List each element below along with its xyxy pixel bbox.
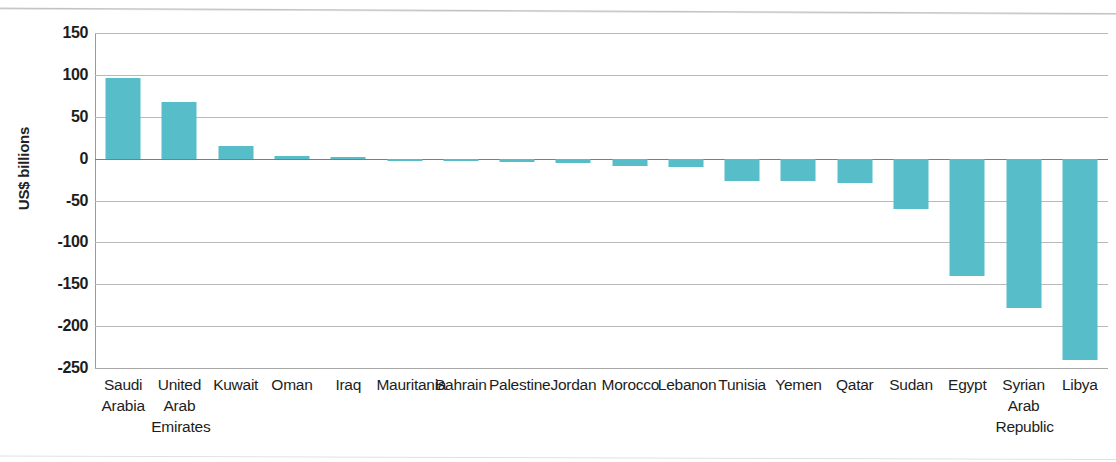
bar-slot	[489, 33, 545, 368]
x-axis-label: SaudiArabia	[95, 374, 151, 416]
x-axis-label-line: Jordan	[545, 374, 601, 395]
x-axis-label-line: Arab	[995, 395, 1051, 416]
y-tick-label: 150	[30, 24, 88, 42]
y-tick-label: 50	[30, 108, 88, 126]
y-tick-label: 0	[30, 150, 88, 168]
bar[interactable]	[556, 159, 591, 163]
x-axis-label: Morocco	[602, 374, 658, 395]
x-axis-label: Iraq	[320, 374, 376, 395]
x-axis-label: Sudan	[883, 374, 939, 395]
bar[interactable]	[331, 157, 366, 159]
bar[interactable]	[1062, 159, 1097, 360]
y-tick-label: -100	[30, 233, 88, 251]
bar-slot	[714, 33, 770, 368]
x-axis-label-line: Arab	[151, 395, 207, 416]
x-axis-label-line: Morocco	[602, 374, 658, 395]
bar-slot	[770, 33, 826, 368]
y-tick-label: -150	[30, 275, 88, 293]
y-tick-label: -50	[30, 192, 88, 210]
x-axis-label-line: Libya	[1052, 374, 1108, 395]
chart-figure: US$ billions 150100500-50-100-150-200-25…	[0, 0, 1116, 462]
bar[interactable]	[106, 78, 141, 158]
plot-area	[95, 33, 1108, 368]
x-axis-label: Jordan	[545, 374, 601, 395]
x-axis-label: Kuwait	[208, 374, 264, 395]
y-tick-label: 100	[30, 66, 88, 84]
bar[interactable]	[274, 156, 309, 159]
x-axis-label: Bahrain	[433, 374, 489, 395]
x-axis-label: Palestine	[489, 374, 545, 395]
x-axis-label-line: Iraq	[320, 374, 376, 395]
x-axis-label-line: Saudi	[95, 374, 151, 395]
bar-slot	[883, 33, 939, 368]
x-axis-label: Qatar	[827, 374, 883, 395]
x-axis-label-line: Kuwait	[208, 374, 264, 395]
x-axis-label: SyrianArabRepublic	[995, 374, 1051, 437]
bar[interactable]	[668, 159, 703, 167]
x-axis-category-labels: SaudiArabiaUnitedArabEmiratesKuwaitOmanI…	[95, 374, 1108, 462]
y-tick-label: -250	[30, 359, 88, 377]
x-axis-label-line: Republic	[995, 416, 1051, 437]
x-axis-label: Egypt	[939, 374, 995, 395]
x-axis-label-line: Syrian	[995, 374, 1051, 395]
bar-slot	[95, 33, 151, 368]
bar-slot	[602, 33, 658, 368]
bar[interactable]	[894, 159, 929, 209]
x-axis-label: Lebanon	[658, 374, 714, 395]
x-axis-label-line: Emirates	[151, 416, 207, 437]
bar-slot	[939, 33, 995, 368]
x-axis-label: Tunisia	[714, 374, 770, 395]
x-axis-label-line: Mauritania	[376, 374, 432, 395]
x-axis-label-line: Sudan	[883, 374, 939, 395]
bar-series	[95, 33, 1108, 368]
x-axis-label-line: Bahrain	[433, 374, 489, 395]
bar[interactable]	[781, 159, 816, 182]
bar-slot	[208, 33, 264, 368]
y-axis-title: US$ billions	[15, 104, 32, 234]
bar[interactable]	[837, 159, 872, 183]
gridline--250	[95, 368, 1108, 369]
bar-slot	[658, 33, 714, 368]
x-axis-label: Oman	[264, 374, 320, 395]
x-axis-label: Mauritania	[376, 374, 432, 395]
x-axis-label-line: Oman	[264, 374, 320, 395]
bar-slot	[1052, 33, 1108, 368]
x-axis-label-line: Arabia	[95, 395, 151, 416]
x-axis-label-line: Yemen	[770, 374, 826, 395]
bar[interactable]	[500, 159, 535, 162]
x-axis-label-line: Palestine	[489, 374, 545, 395]
bar-slot	[320, 33, 376, 368]
bar-slot	[995, 33, 1051, 368]
bar-slot	[264, 33, 320, 368]
bar[interactable]	[725, 159, 760, 182]
bar-slot	[545, 33, 601, 368]
bar-slot	[433, 33, 489, 368]
x-axis-label-line: Egypt	[939, 374, 995, 395]
x-axis-label-line: Tunisia	[714, 374, 770, 395]
bar[interactable]	[950, 159, 985, 276]
bar[interactable]	[1006, 159, 1041, 308]
x-axis-label-line: United	[151, 374, 207, 395]
x-axis-label: Libya	[1052, 374, 1108, 395]
bar-slot	[151, 33, 207, 368]
bar[interactable]	[387, 159, 422, 161]
y-tick-label: -200	[30, 317, 88, 335]
bar[interactable]	[612, 159, 647, 167]
scan-artifact-line-top	[0, 7, 1116, 15]
x-axis-label: UnitedArabEmirates	[151, 374, 207, 437]
bar[interactable]	[162, 102, 197, 159]
bar-slot	[376, 33, 432, 368]
x-axis-label-line: Lebanon	[658, 374, 714, 395]
y-axis-tick-labels: 150100500-50-100-150-200-250	[30, 0, 88, 462]
bar[interactable]	[218, 146, 253, 159]
x-axis-label-line: Qatar	[827, 374, 883, 395]
bar[interactable]	[443, 159, 478, 161]
bar-slot	[827, 33, 883, 368]
x-axis-label: Yemen	[770, 374, 826, 395]
